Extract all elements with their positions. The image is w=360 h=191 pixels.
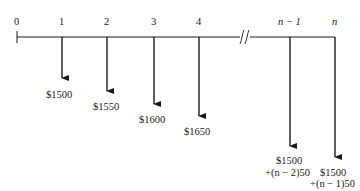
period-label-1: 1 xyxy=(59,16,64,28)
period-label-n-minus-1: n − 1 xyxy=(278,16,301,28)
time-axis xyxy=(17,31,335,43)
axis-break-marker xyxy=(240,30,249,44)
amount-label-n-line2: +(n − 1)50 xyxy=(310,178,355,190)
amount-label-2: $1550 xyxy=(93,101,119,113)
cash-flow-arrows xyxy=(62,37,335,157)
amount-label-3: $1600 xyxy=(139,114,165,126)
amount-label-4: $1650 xyxy=(184,126,210,138)
period-label-2: 2 xyxy=(104,16,109,28)
period-label-n: n xyxy=(332,16,337,28)
amount-label-1: $1500 xyxy=(46,89,72,101)
period-label-0: 0 xyxy=(14,16,19,28)
amount-label-n-minus-1-line1: $1500 xyxy=(276,155,302,167)
period-label-4: 4 xyxy=(196,16,201,28)
period-label-3: 3 xyxy=(151,16,156,28)
amount-label-n-minus-1-line2: +(n − 2)50 xyxy=(265,167,310,179)
